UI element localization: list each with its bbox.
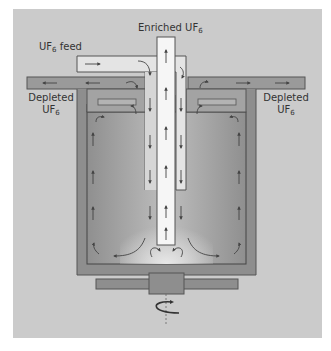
depleted-right-line2: UF6	[262, 104, 310, 119]
depleted-right-sub: 6	[290, 109, 294, 117]
depleted-left-uf: UF	[42, 104, 55, 115]
drive-hub	[149, 273, 184, 294]
rotation-icon	[156, 294, 179, 326]
enriched-uf6-label: Enriched UF6	[138, 22, 203, 37]
depleted-uf6-left-label: Depleted UF6	[27, 92, 75, 119]
depleted-uf6-right-label: Depleted UF6	[262, 92, 310, 119]
depleted-right-uf: UF	[277, 104, 290, 115]
feed-label-text: UF	[39, 41, 52, 52]
depleted-left-line1: Depleted	[27, 92, 75, 104]
enriched-label-text: Enriched UF	[138, 22, 198, 33]
uf6-feed-label: UF6 feed	[39, 41, 82, 56]
feed-label-suffix: feed	[57, 41, 82, 52]
depleted-left-line2: UF6	[27, 104, 75, 119]
depleted-right-line1: Depleted	[262, 92, 310, 104]
depleted-left-sub: 6	[55, 109, 59, 117]
enriched-label-sub: 6	[198, 27, 202, 35]
